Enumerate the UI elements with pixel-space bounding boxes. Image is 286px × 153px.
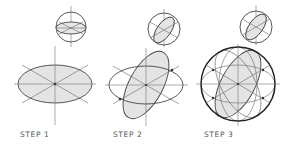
- step-1-label: STEP 1: [20, 130, 49, 139]
- tangent-point-1: [212, 69, 214, 71]
- tangent-point-2: [262, 69, 264, 71]
- step-3-key-sphere: [240, 5, 272, 45]
- step-3-figure: [196, 5, 280, 126]
- step-2-key-sphere: [148, 9, 180, 47]
- step-1-key-sphere: [56, 6, 86, 47]
- step-2-figure: [105, 9, 188, 126]
- step-3-label: STEP 3: [204, 130, 233, 139]
- tangent-point-4: [262, 97, 264, 99]
- step-1-main: [14, 46, 96, 125]
- tangent-point-2: [171, 69, 174, 72]
- center-point: [145, 84, 147, 86]
- step-3-main: [196, 43, 280, 126]
- step-1-figure: [14, 6, 96, 125]
- center-point: [237, 83, 239, 85]
- step-2-main: [105, 44, 188, 126]
- tangent-point-3: [212, 97, 214, 99]
- center-point: [54, 83, 57, 86]
- tangent-point-1: [119, 98, 122, 101]
- step-2-label: STEP 2: [113, 130, 142, 139]
